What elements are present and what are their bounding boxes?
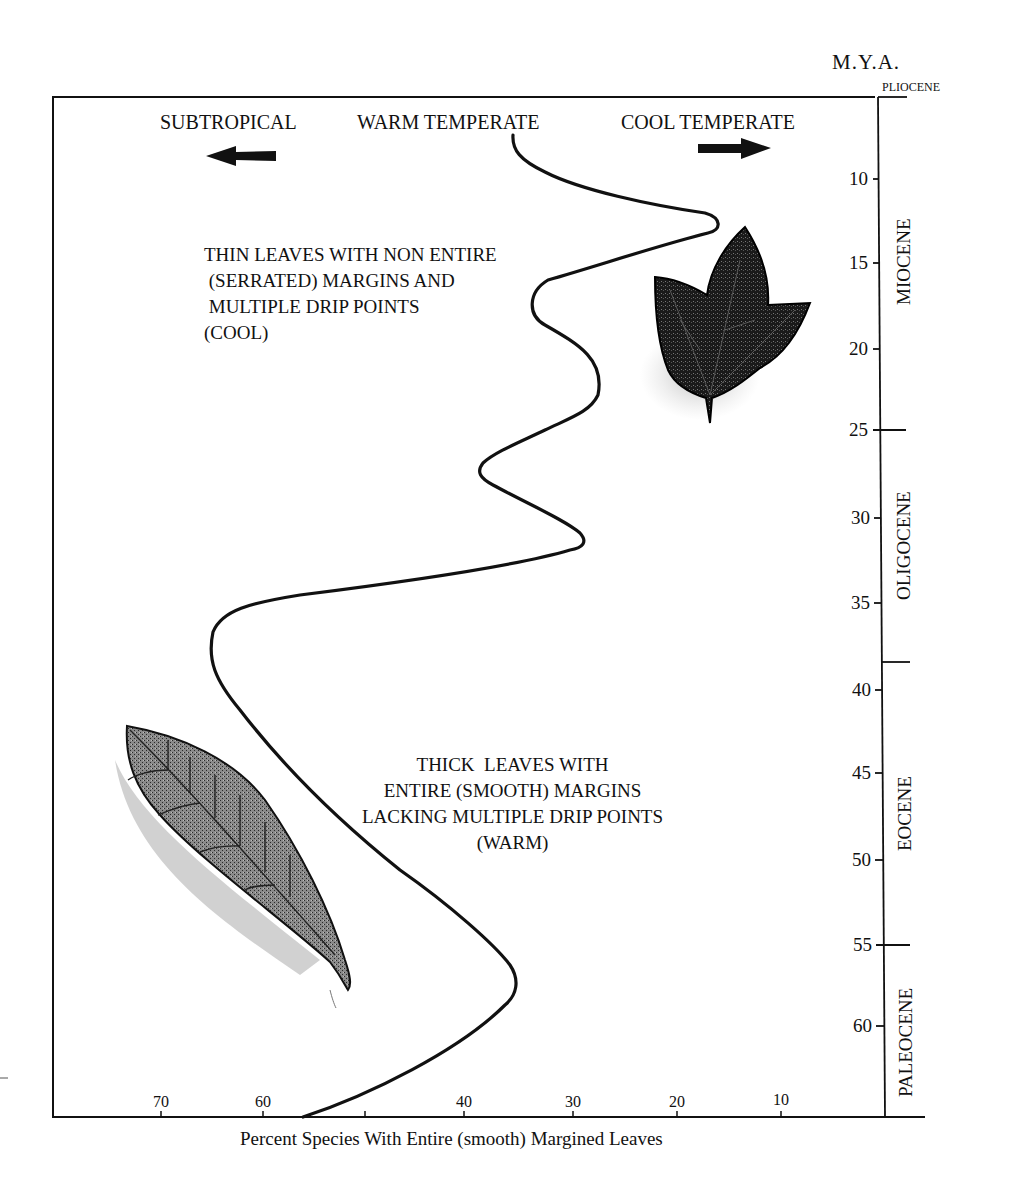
epoch-paleocene: PALEOCENE: [895, 988, 917, 1097]
y-tick-25: 25: [828, 419, 868, 441]
epoch-eocene: EOCENE: [894, 776, 916, 851]
x-axis-label: Percent Species With Entire (smooth) Mar…: [240, 1128, 663, 1150]
y-tick-55: 55: [832, 934, 872, 956]
y-tick-30: 30: [830, 507, 870, 529]
y-tick-35: 35: [830, 592, 870, 614]
y-tick-60: 60: [832, 1015, 872, 1037]
label-cool-temperate: COOL TEMPERATE: [621, 111, 795, 134]
note-cool-leaves: THIN LEAVES WITH NON ENTIRE (SERRATED) M…: [204, 242, 497, 346]
y-tick-15: 15: [828, 252, 868, 274]
serrated-leaf-illustration: [640, 227, 810, 423]
x-tick-70: 70: [141, 1093, 181, 1111]
epoch-pliocene: PLIOCENE: [882, 80, 940, 95]
units-label: M.Y.A.: [832, 50, 900, 75]
x-tick-30: 30: [553, 1093, 593, 1111]
x-tick-10: 10: [761, 1091, 801, 1109]
note-warm-leaves: THICK LEAVES WITH ENTIRE (SMOOTH) MARGIN…: [362, 752, 663, 856]
arrow-left-icon: [206, 146, 276, 166]
arrow-right-icon: [698, 138, 771, 159]
x-tick-40: 40: [444, 1093, 484, 1111]
y-tick-40: 40: [831, 679, 871, 701]
epoch-miocene: MIOCENE: [893, 218, 915, 305]
x-tick-60: 60: [243, 1093, 283, 1111]
y-tick-45: 45: [831, 762, 871, 784]
label-subtropical: SUBTROPICAL: [160, 111, 297, 134]
label-warm-temperate: WARM TEMPERATE: [357, 111, 539, 134]
y-tick-20: 20: [828, 338, 868, 360]
epoch-oligocene: OLIGOCENE: [893, 491, 915, 600]
x-tick-20: 20: [657, 1093, 697, 1111]
y-tick-10: 10: [828, 168, 868, 190]
smooth-leaf-illustration: [115, 726, 350, 1008]
y-tick-50: 50: [831, 849, 871, 871]
